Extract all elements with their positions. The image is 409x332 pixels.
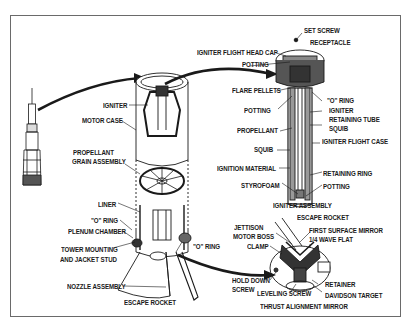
- label-potting-bottom: POTTING: [323, 183, 350, 191]
- label-o-ring-right: "O" RING: [327, 97, 354, 105]
- label-receptacle: RECEPTACLE: [310, 39, 350, 47]
- label-igniter-flight-case: IGNITER FLIGHT CASE: [322, 138, 388, 146]
- label-tower-mounting-line1: TOWER MOUNTING: [61, 246, 118, 254]
- label-squib-right: SQUIB: [329, 125, 348, 133]
- label-igniter-flight-head-cap: IGNITER FLIGHT HEAD CAP: [197, 49, 278, 57]
- label-o-ring-center: "O" RING: [193, 243, 220, 251]
- label-escape-rocket-right: ESCAPE ROCKET: [297, 214, 349, 222]
- label-first-surface-mirror-line1: FIRST SURFACE MIRROR: [309, 227, 383, 235]
- label-propellant-grain-line2: GRAIN ASSEMBLY: [72, 158, 126, 166]
- label-styrofoam: STYROFOAM: [241, 182, 280, 190]
- label-tower-mounting-line2: AND JACKET STUD: [60, 256, 117, 264]
- label-igniter-retaining-tube-line1: IGNITER: [329, 107, 353, 115]
- label-motor-case: MOTOR CASE: [82, 117, 123, 125]
- label-retaining-ring: RETAINING RING: [323, 170, 372, 178]
- label-propellant-grain-line1: PROPELLANT: [73, 149, 114, 157]
- label-flare-pellets: FLARE PELLETS: [232, 87, 281, 95]
- label-escape-rocket-bottom: ESCAPE ROCKET: [124, 299, 176, 307]
- label-hold-down-screw-line2: SCREW: [232, 286, 254, 294]
- label-davidson-target: DAVIDSON TARGET: [325, 292, 382, 300]
- label-thrust-alignment-mirror: THRUST ALIGNMENT MIRROR: [260, 303, 348, 311]
- label-clamp: CLAMP: [247, 243, 268, 251]
- launch-vehicle-icon: [23, 88, 41, 185]
- label-plenum-chamber: PLENUM CHAMBER: [68, 228, 126, 236]
- label-retainer: RETAINER: [325, 281, 355, 289]
- label-squib-left: SQUIB: [254, 146, 273, 154]
- label-igniter-assembly: IGNITER ASSEMBLY: [273, 202, 332, 210]
- escape-motor-drawing: [118, 73, 198, 300]
- label-hold-down-screw-line1: HOLD DOWN: [232, 277, 270, 285]
- label-jettison-motor-boss-line1: JETTISON: [234, 224, 263, 232]
- label-potting-mid: POTTING: [244, 107, 271, 115]
- label-ignition-material: IGNITION MATERIAL: [217, 165, 276, 173]
- igniter-detail-drawing: [276, 38, 324, 207]
- label-first-surface-mirror-line2: 1/4 WAVE FLAT: [309, 236, 353, 244]
- label-nozzle-assembly: NOZZLE ASSEMBLY: [67, 283, 125, 291]
- label-liner: LINER: [98, 201, 116, 209]
- label-potting-top: POTTING: [242, 61, 269, 69]
- label-jettison-motor-boss-line2: MOTOR BOSS: [233, 233, 274, 241]
- label-igniter: IGNITER: [103, 102, 127, 110]
- label-igniter-retaining-tube-line2: RETAINING TUBE: [329, 116, 380, 124]
- label-o-ring-left: "O" RING: [91, 217, 118, 225]
- label-set-screw: SET SCREW: [304, 27, 340, 35]
- label-propellant: PROPELLANT: [237, 127, 278, 135]
- label-leveling-screw: LEVELING SCREW: [257, 290, 311, 298]
